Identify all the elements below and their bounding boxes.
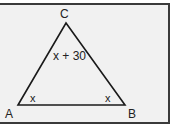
angle-label-a: x <box>30 93 36 104</box>
vertex-label-a: A <box>5 108 13 120</box>
angle-label-b: x <box>105 93 111 104</box>
angle-label-c: x + 30 <box>53 50 86 62</box>
triangle-abc <box>0 0 175 128</box>
vertex-label-c: C <box>60 8 69 20</box>
vertex-label-b: B <box>128 108 136 120</box>
